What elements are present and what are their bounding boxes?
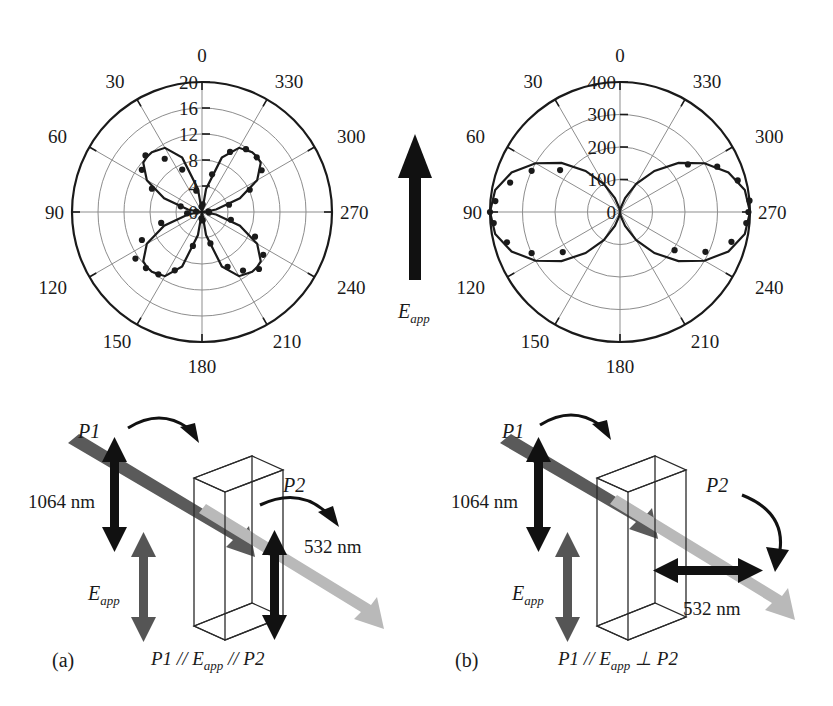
data-point <box>198 215 204 221</box>
polar-plot-right: 0 100 200 300 400 0 330 300 270 240 210 … <box>457 45 787 377</box>
data-point <box>259 167 265 173</box>
data-point <box>162 156 168 162</box>
data-point <box>193 188 199 194</box>
p1-label: P1 <box>77 420 100 442</box>
p1-label: P1 <box>501 420 524 442</box>
angle-tick-label: 210 <box>273 331 302 352</box>
data-point <box>728 239 734 245</box>
data-point <box>207 240 213 246</box>
data-point <box>193 208 199 214</box>
angle-tick-label: 120 <box>457 277 486 298</box>
p2-rotation-arrow-icon <box>742 495 789 572</box>
angle-tick-label: 270 <box>340 202 369 223</box>
angle-tick-label: 120 <box>39 277 68 298</box>
polar-radial-ticks-right <box>620 82 628 180</box>
data-point <box>198 204 204 210</box>
angle-tick-label: 180 <box>606 356 635 377</box>
input-wavelength-label: 1064 nm <box>28 491 95 512</box>
data-point <box>529 250 535 256</box>
eapp-label-text: E <box>511 582 524 604</box>
radial-tick-label: 0 <box>607 202 617 223</box>
angle-tick-label: 300 <box>337 126 366 147</box>
data-point <box>228 217 234 223</box>
data-point <box>139 167 145 173</box>
angle-tick-label: 90 <box>463 202 482 223</box>
radial-tick-label: 100 <box>588 169 617 190</box>
data-point <box>685 161 691 167</box>
data-point <box>178 203 184 209</box>
caption-sub: app <box>611 658 631 673</box>
data-point <box>507 179 513 185</box>
angle-tick-label: 240 <box>755 277 784 298</box>
radial-tick-label: 300 <box>588 104 617 125</box>
data-point <box>240 267 246 273</box>
eapp-label: Eapp <box>397 300 430 326</box>
data-point <box>158 220 164 226</box>
data-point <box>743 220 749 226</box>
data-point <box>243 146 249 152</box>
data-point <box>491 220 497 226</box>
radial-tick-label: 400 <box>588 72 617 93</box>
eapp-label-sub: app <box>100 593 120 608</box>
panel-label-a: (a) <box>52 649 74 672</box>
data-point <box>224 264 230 270</box>
data-point <box>206 210 212 216</box>
angle-tick-label: 60 <box>48 126 67 147</box>
panel-label-b: (b) <box>455 649 478 672</box>
angle-tick-label: 210 <box>691 331 720 352</box>
data-point <box>735 177 741 183</box>
data-point <box>190 243 196 249</box>
output-wavelength-label: 532 nm <box>304 536 362 557</box>
radial-tick-label: 200 <box>588 137 617 158</box>
eapp-arrow-icon <box>555 532 580 642</box>
angle-tick-label: 270 <box>758 202 787 223</box>
radial-tick-label: 8 <box>189 150 199 171</box>
data-point <box>714 164 720 170</box>
eapp-label-sub: app <box>524 593 544 608</box>
optical-setup-diagram-a: P1 1064 nm Eapp P2 532 nm <box>28 418 384 673</box>
eapp-label-sub: app <box>410 311 430 326</box>
data-point <box>256 266 262 272</box>
data-point <box>745 209 751 215</box>
crystal-slab <box>597 456 686 640</box>
beam-1064nm <box>500 434 658 539</box>
p2-label: P2 <box>705 474 728 496</box>
optical-setup-diagram-b: P1 1064 nm Eapp P2 532 nm (b) P1 // E <box>451 415 795 673</box>
radial-tick-label: 12 <box>179 124 198 145</box>
p1-rotation-arrow-icon <box>540 415 611 440</box>
data-point <box>560 249 566 255</box>
radial-tick-label: 16 <box>179 98 198 119</box>
data-point <box>557 167 563 173</box>
data-point <box>254 154 260 160</box>
data-point <box>227 149 233 155</box>
data-point <box>143 265 149 271</box>
data-point <box>139 237 145 243</box>
data-point <box>172 267 178 273</box>
data-point <box>184 210 190 216</box>
panel-caption-a: P1 // Eapp // P2 <box>150 648 265 673</box>
angle-tick-label: 0 <box>615 45 625 66</box>
angle-tick-label: 30 <box>106 71 125 92</box>
center-eapp-arrow-group: Eapp <box>397 134 432 326</box>
eapp-label-text: E <box>87 582 100 604</box>
data-point <box>487 209 493 215</box>
eapp-label: Eapp <box>511 582 544 608</box>
data-point <box>132 256 138 262</box>
data-point <box>247 187 253 193</box>
data-point <box>529 168 535 174</box>
angle-tick-label: 330 <box>275 71 304 92</box>
polar-plot-left: 0 4 8 12 16 20 0 330 300 270 240 210 180… <box>39 45 369 377</box>
data-point <box>226 202 232 208</box>
caption-main: P1 // E <box>557 648 611 669</box>
eapp-arrow-icon <box>398 134 432 280</box>
angle-tick-label: 30 <box>524 71 543 92</box>
angle-tick-label: 330 <box>693 71 722 92</box>
angle-tick-label: 240 <box>337 277 366 298</box>
data-point <box>746 198 752 204</box>
caption-main: P1 // E <box>150 648 204 669</box>
data-point <box>155 271 161 277</box>
eapp-label: Eapp <box>87 582 120 608</box>
data-point <box>149 186 155 192</box>
data-point <box>209 171 215 177</box>
data-point <box>260 252 266 258</box>
